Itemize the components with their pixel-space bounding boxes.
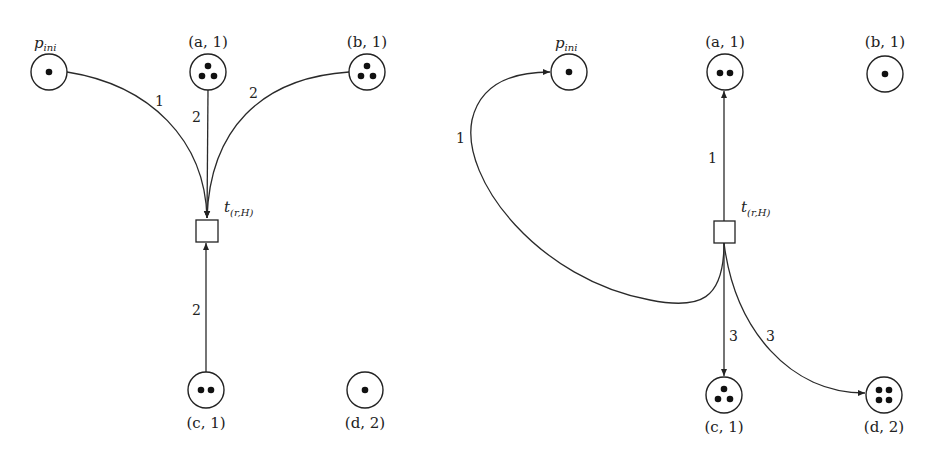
- arc-weight-a1: 2: [192, 109, 201, 125]
- arc-weight-pini: 1: [456, 130, 465, 146]
- diagram-after: 1 1 3 3 t(r,H) pini (a, 1) (b, 1): [456, 33, 905, 436]
- place-b1: (b, 1): [347, 33, 387, 90]
- arc-pini-to-transition: [67, 72, 207, 218]
- place-label-p-ini: pini: [555, 34, 577, 53]
- token: [46, 69, 53, 76]
- arc-weight-pini: 1: [155, 93, 164, 109]
- arc-weight-c1: 2: [192, 302, 201, 318]
- place-label-p-ini: pini: [34, 34, 56, 53]
- arc-weight-a1: 1: [708, 150, 717, 166]
- place-label-d2: (d, 2): [864, 418, 904, 436]
- arc-transition-to-pini: [471, 72, 724, 303]
- transition-label: t(r,H): [741, 198, 771, 218]
- place-p-ini: pini: [551, 34, 587, 90]
- place-label-a1: (a, 1): [188, 33, 228, 51]
- place-label-b1: (b, 1): [865, 33, 905, 51]
- place-label-c1: (c, 1): [186, 414, 225, 432]
- transition-label: t(r,H): [224, 198, 254, 218]
- transition-box: [196, 220, 218, 242]
- arc-transition-to-d2: [724, 243, 865, 393]
- place-a1: (a, 1): [705, 33, 745, 90]
- arc-weight-b1: 2: [249, 85, 258, 101]
- place-d2: (d, 2): [345, 372, 385, 432]
- place-b1: (b, 1): [865, 33, 905, 92]
- place-label-a1: (a, 1): [705, 33, 745, 51]
- transition-box: [714, 221, 735, 243]
- arc-b1-to-transition: [207, 72, 349, 218]
- arc-weight-c1: 3: [729, 328, 738, 344]
- place-d2: (d, 2): [864, 377, 904, 436]
- place-a1: (a, 1): [188, 33, 228, 90]
- arc-weight-d2: 3: [766, 328, 775, 344]
- petri-net-figure: 1 2 2 2 t(r,H) pini (a, 1) (b, 1): [0, 0, 934, 463]
- place-label-d2: (d, 2): [345, 414, 385, 432]
- place-p-ini: pini: [31, 34, 67, 90]
- place-label-c1: (c, 1): [704, 418, 743, 436]
- place-c1: (c, 1): [186, 372, 225, 432]
- diagram-before: 1 2 2 2 t(r,H) pini (a, 1) (b, 1): [31, 33, 387, 432]
- place-label-b1: (b, 1): [347, 33, 387, 51]
- place-c1: (c, 1): [704, 377, 743, 436]
